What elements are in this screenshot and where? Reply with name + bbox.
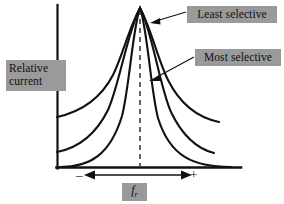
least-selective-arrow: [150, 12, 186, 25]
plot-area: [0, 0, 284, 204]
x-axis-positive-sign: +: [190, 168, 197, 181]
most-selective-label: Most selective: [195, 49, 281, 66]
least-selective-label: Least selective: [187, 6, 277, 23]
y-axis-label-line2: current: [9, 75, 42, 87]
resonance-selectivity-figure: Relative current Least selective Most se…: [0, 0, 284, 204]
resonant-frequency-label: fr: [122, 183, 147, 201]
y-axis-label-line1: Relative: [9, 62, 48, 74]
y-axis-label: Relative current: [6, 60, 66, 91]
bandwidth-double-arrow: [84, 171, 192, 180]
curve-most-selective: [60, 8, 231, 167]
resonant-frequency-subscript: r: [135, 190, 138, 199]
x-axis-negative-sign: –: [76, 168, 83, 181]
